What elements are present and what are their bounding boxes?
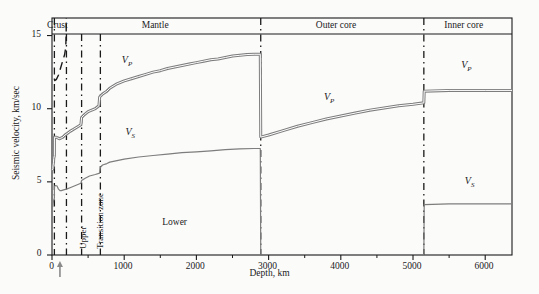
curve-V_P-outer <box>52 54 512 170</box>
xtick-label-2000: 2000 <box>186 261 205 271</box>
zone-lower: Lower <box>162 217 187 227</box>
region-mantle: Mantle <box>142 20 169 30</box>
xtick-label-3000: 3000 <box>258 261 277 271</box>
ytick-label-0: 0 <box>37 248 42 258</box>
depth-marker-arrow-head <box>57 261 63 267</box>
zone-upper: Upper <box>78 227 88 250</box>
region-boundaries <box>54 18 423 255</box>
ytick-label-15: 15 <box>31 29 41 39</box>
vp-label-inner-core: VP <box>461 59 471 73</box>
seismic-velocity-figure: Seismic velocity, km/sec Depth, km 01000… <box>0 0 539 294</box>
xtick-label-5000: 5000 <box>402 261 421 271</box>
region-inner-core: Inner core <box>444 20 483 30</box>
xtick-label-4000: 4000 <box>330 261 349 271</box>
xtick-label-1000: 1000 <box>114 261 133 271</box>
xtick-label-6000: 6000 <box>475 261 494 271</box>
vp-label-mantle: VP <box>122 54 132 68</box>
ytick-label-5: 5 <box>37 175 42 185</box>
zone-transition: Transition zone <box>95 193 105 249</box>
curve-V_S <box>52 149 512 256</box>
xtick-label-0: 0 <box>49 261 54 271</box>
axis-ticks <box>47 36 485 260</box>
vp-label-outer-core: VP <box>324 91 334 105</box>
vs-label-mantle: VS <box>125 126 135 140</box>
ytick-label-10: 10 <box>31 102 41 112</box>
region-outer-core: Outer core <box>316 20 356 30</box>
region-crust: Crust <box>47 20 68 30</box>
curve-V_P-inner <box>52 54 512 170</box>
y-axis-label: Seismic velocity, km/sec <box>11 73 21 193</box>
vs-label-inner-core: VS <box>465 175 475 189</box>
plot-canvas <box>0 0 539 294</box>
